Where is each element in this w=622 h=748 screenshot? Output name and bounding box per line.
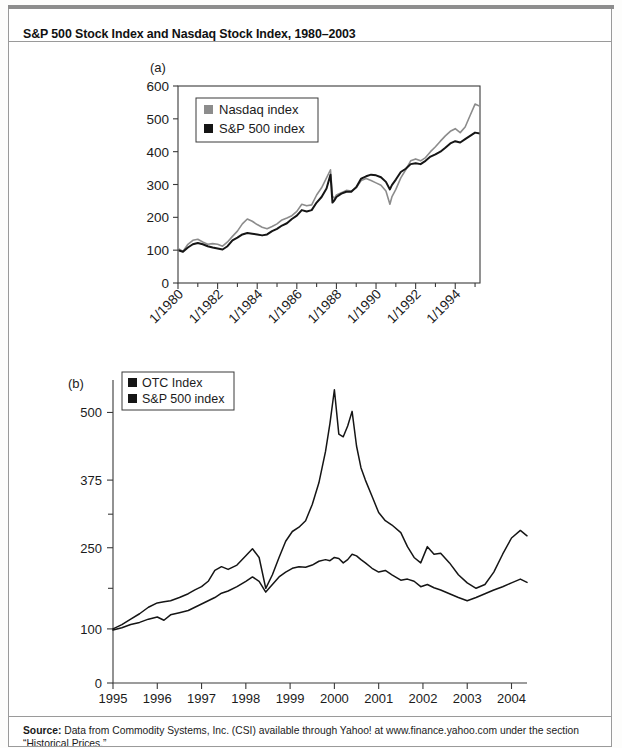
source-note: Source: Data from Commodity Systems, Inc…	[23, 724, 603, 747]
panel-a-ytick-label: 600	[146, 79, 169, 94]
panel-a-ytick-label: 0	[161, 276, 169, 291]
panel-a-xtick-label: 1/1982	[186, 287, 226, 327]
source-body: Data from Commodity Systems, Inc. (CSI) …	[23, 725, 579, 747]
panel-a-ytick-label: 400	[146, 145, 169, 160]
panel-a-legend-label-0: Nasdaq index	[219, 102, 299, 117]
panel-b-ytick-label: 500	[80, 405, 102, 420]
chart-panel-a: (a)01002003004005006001/19801/19821/1984…	[0, 42, 604, 352]
panel-b-xtick-label: 1997	[187, 691, 216, 706]
page-title: S&P 500 Stock Index and Nasdaq Stock Ind…	[23, 27, 356, 41]
panel-a-xtick-label: 1/1988	[305, 287, 345, 327]
panel-b-xtick-label: 1995	[99, 691, 128, 706]
panel-a-xtick-label: 1/1986	[265, 287, 305, 327]
panel-b-ytick-label: 250	[80, 541, 102, 556]
panel-b-axes	[113, 380, 527, 683]
panel-b-legend-label-0: OTC Index	[142, 376, 203, 390]
panel-b-legend-swatch-0	[128, 378, 137, 387]
panel-a-legend-swatch-0	[204, 105, 213, 114]
panel-a-xtick-label: 1/1994	[424, 286, 464, 326]
panel-a-xtick-label: 1/1992	[384, 287, 424, 327]
panel-a-ytick-label: 300	[146, 178, 169, 193]
panel-b-xtick-label: 2004	[497, 691, 526, 706]
panel-b-xtick-label: 2001	[364, 691, 393, 706]
figure-title-box: S&P 500 Stock Index and Nasdaq Stock Ind…	[8, 9, 612, 42]
panel-b-legend-label-1: S&P 500 index	[142, 392, 225, 406]
panel-b-xtick-label: 1996	[143, 691, 172, 706]
panel-b-xtick-label: 2002	[408, 691, 437, 706]
panel-a-legend-label-1: S&P 500 index	[219, 121, 305, 136]
panel-a-label: (a)	[150, 60, 166, 75]
panel-a-xtick-label: 1/1984	[226, 286, 266, 326]
panel-a-legend-swatch-1	[204, 124, 213, 133]
panel-a-series-1	[178, 133, 480, 252]
panel-b-series-1	[113, 554, 527, 630]
panel-b-xtick-label: 2000	[320, 691, 349, 706]
panel-a-ytick-label: 100	[146, 243, 169, 258]
panel-b-ytick-label: 375	[80, 473, 102, 488]
panel-a-xtick-label: 1/1980	[146, 287, 186, 327]
figure-root: S&P 500 Stock Index and Nasdaq Stock Ind…	[0, 0, 622, 748]
figure-source-box: Source: Data from Commodity Systems, Inc…	[8, 717, 612, 747]
panel-a-ytick-label: 200	[146, 210, 169, 225]
source-label: Source:	[23, 725, 61, 736]
panel-b-xtick-label: 2003	[453, 691, 482, 706]
panel-b-ytick-label: 100	[80, 622, 102, 637]
panel-a-ytick-label: 500	[146, 112, 169, 127]
chart-b-svg: (b)0100250375500199519961997199819992000…	[0, 350, 604, 720]
panel-b-legend-swatch-1	[128, 394, 137, 403]
chart-a-svg: (a)01002003004005006001/19801/19821/1984…	[0, 42, 604, 352]
panel-b-xtick-label: 1999	[276, 691, 305, 706]
panel-b-label: (b)	[68, 376, 84, 391]
panel-a-xtick-label: 1/1990	[344, 287, 384, 327]
chart-panel-b: (b)0100250375500199519961997199819992000…	[0, 350, 604, 720]
panel-b-ytick-label: 0	[95, 676, 102, 691]
panel-b-xtick-label: 1998	[231, 691, 260, 706]
panel-b-series-0	[113, 390, 527, 629]
